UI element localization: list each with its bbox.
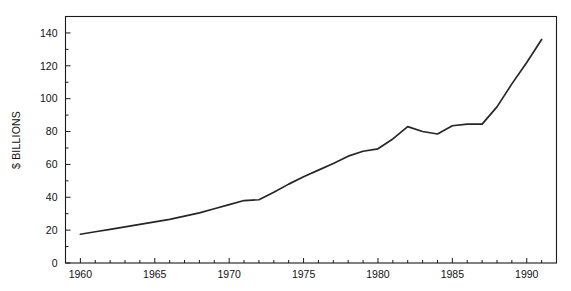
y-tick-label: 20	[46, 224, 58, 236]
x-tick-label: 1980	[366, 268, 390, 280]
y-tick-label: 120	[40, 60, 58, 72]
x-tick-label: 1970	[217, 268, 241, 280]
x-tick-label: 1975	[292, 268, 316, 280]
y-axis-ticks	[66, 17, 71, 264]
x-tick-label: 1965	[143, 268, 167, 280]
data-series-line	[80, 40, 541, 235]
y-tick-label: 100	[40, 92, 58, 104]
chart-container: 020406080100120140 196019651970197519801…	[0, 0, 571, 291]
plot-frame	[66, 17, 557, 264]
y-tick-label: 80	[46, 125, 58, 137]
y-tick-label: 140	[40, 27, 58, 39]
line-chart: 020406080100120140 196019651970197519801…	[0, 0, 571, 291]
y-axis-tick-labels: 020406080100120140	[40, 27, 58, 269]
x-tick-label: 1960	[69, 268, 93, 280]
y-tick-label: 0	[52, 257, 58, 269]
x-axis-ticks	[80, 258, 541, 263]
x-tick-label: 1990	[515, 268, 539, 280]
y-tick-label: 60	[46, 158, 58, 170]
y-tick-label: 40	[46, 191, 58, 203]
y-axis-title: $ BILLIONS	[10, 111, 22, 169]
x-axis-tick-labels: 1960196519701975198019851990	[69, 268, 539, 280]
x-tick-label: 1985	[441, 268, 465, 280]
